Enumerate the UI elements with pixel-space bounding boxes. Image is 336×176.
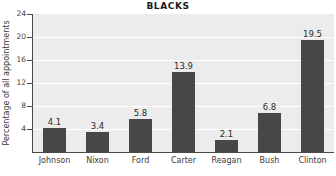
y-axis-tick-label: 12: [2, 78, 26, 87]
x-axis-category-label: Bush: [246, 156, 294, 165]
x-axis-category-label: Carter: [160, 156, 208, 165]
bar-value-label: 5.8: [121, 108, 161, 118]
y-axis-tick: [27, 129, 32, 130]
bar: [258, 113, 281, 152]
bar: [86, 132, 109, 152]
bar: [129, 119, 152, 152]
x-axis-category-label: Reagan: [203, 156, 251, 165]
y-axis-tick: [27, 83, 32, 84]
bar-value-label: 2.1: [207, 129, 247, 139]
bar-value-label: 3.4: [78, 121, 118, 131]
gridline: [33, 37, 334, 38]
y-axis-tick: [27, 14, 32, 15]
bar: [43, 128, 66, 152]
bar-value-label: 13.9: [164, 61, 204, 71]
y-axis-tick-label: 24: [2, 9, 26, 18]
x-axis-line: [32, 152, 334, 153]
y-axis-tick-labels: 4812162024: [0, 0, 26, 176]
y-axis-tick-label: 20: [2, 32, 26, 41]
y-axis-tick-label: 8: [2, 101, 26, 110]
bar: [215, 140, 238, 152]
x-axis-category-label: Nixon: [74, 156, 122, 165]
y-axis-tick: [27, 37, 32, 38]
y-axis-tick: [27, 106, 32, 107]
x-axis-category-label: Clinton: [289, 156, 336, 165]
y-axis-tick: [27, 60, 32, 61]
bar: [172, 72, 195, 152]
y-axis-tick-label: 4: [2, 124, 26, 133]
x-axis-category-label: Johnson: [31, 156, 79, 165]
y-axis-line: [32, 14, 33, 153]
y-axis-tick-label: 16: [2, 55, 26, 64]
bar-value-label: 6.8: [250, 102, 290, 112]
x-axis-category-label: Ford: [117, 156, 165, 165]
bar: [301, 40, 324, 152]
chart-title: BLACKS: [0, 1, 336, 11]
bar-value-label: 19.5: [293, 29, 333, 39]
bar-chart: BLACKS Percentage of all appointments 48…: [0, 0, 336, 176]
bar-value-label: 4.1: [35, 117, 75, 127]
